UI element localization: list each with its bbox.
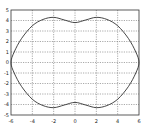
y-tick-label: -4 <box>4 101 9 107</box>
x-tick-label: -2 <box>51 118 56 124</box>
y-tick-label: 5 <box>6 7 9 13</box>
y-tick-label: 4 <box>6 17 9 23</box>
x-tick-label: 6 <box>137 118 140 124</box>
x-tick-label: -6 <box>9 118 14 124</box>
y-tick-label: 3 <box>6 28 9 34</box>
x-axis-ticks: -6-4-20246 <box>9 118 141 124</box>
y-tick-label: 2 <box>6 38 9 44</box>
x-tick-label: 0 <box>73 118 76 124</box>
y-tick-label: 0 <box>6 59 9 65</box>
y-axis-ticks: 543210-1-2-3-4-5 <box>4 7 9 118</box>
y-tick-label: -1 <box>4 70 9 76</box>
y-tick-label: -2 <box>4 80 9 86</box>
grid-lines <box>11 10 139 115</box>
x-tick-label: 2 <box>95 118 98 124</box>
y-tick-label: -5 <box>4 112 9 118</box>
chart: -6-4-20246 543210-1-2-3-4-5 <box>0 0 148 130</box>
x-tick-label: -4 <box>30 118 35 124</box>
x-tick-label: 4 <box>116 118 119 124</box>
y-tick-label: -3 <box>4 91 9 97</box>
y-tick-label: 1 <box>6 49 9 55</box>
